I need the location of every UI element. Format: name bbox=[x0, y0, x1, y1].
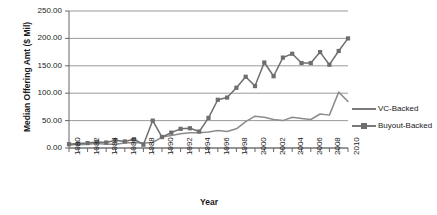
data-point-marker bbox=[244, 75, 248, 79]
data-point-marker bbox=[262, 60, 266, 64]
data-point-marker bbox=[151, 119, 155, 123]
x-tick-label: 2010 bbox=[352, 137, 361, 155]
legend-item-buyout-backed: Buyout-Backed bbox=[352, 117, 437, 134]
series-line-buyout-backed bbox=[69, 38, 348, 144]
data-point-marker bbox=[216, 98, 220, 102]
data-point-marker bbox=[346, 36, 350, 40]
data-point-marker bbox=[337, 49, 341, 53]
data-point-marker bbox=[123, 139, 127, 143]
x-tick-label: 2006 bbox=[315, 137, 324, 155]
x-tick-label: 2008 bbox=[333, 137, 342, 155]
legend-swatch-line-marker-icon bbox=[352, 120, 376, 131]
legend-swatch-line-icon bbox=[352, 103, 376, 114]
x-tick-label: 1984 bbox=[110, 137, 119, 155]
data-point-marker bbox=[141, 143, 145, 147]
data-point-marker bbox=[253, 84, 257, 88]
x-axis-title: Year bbox=[69, 197, 349, 207]
x-tick-label: 1998 bbox=[240, 137, 249, 155]
data-point-marker bbox=[327, 63, 331, 67]
chart-container: Median Offering Amt ($ Mil) Year 0.0050.… bbox=[0, 0, 437, 215]
data-point-marker bbox=[188, 126, 192, 130]
data-point-marker bbox=[206, 116, 210, 120]
x-tick-label: 2002 bbox=[278, 137, 287, 155]
x-tick-label: 1994 bbox=[203, 137, 212, 155]
legend-label-buyout-backed: Buyout-Backed bbox=[376, 121, 432, 130]
data-point-marker bbox=[309, 61, 313, 65]
x-tick-label: 1990 bbox=[166, 137, 175, 155]
x-tick-label: 1980 bbox=[73, 137, 82, 155]
legend-label-vc-backed: VC-Backed bbox=[376, 104, 418, 113]
data-point-marker bbox=[225, 95, 229, 99]
data-point-marker bbox=[318, 50, 322, 54]
data-point-marker bbox=[234, 86, 238, 90]
data-point-marker bbox=[67, 142, 71, 146]
y-tick-label: 150.00 bbox=[18, 61, 62, 70]
data-point-marker bbox=[272, 74, 276, 78]
x-tick-label: 1992 bbox=[185, 137, 194, 155]
y-tick-label: 200.00 bbox=[18, 33, 62, 42]
data-point-marker bbox=[290, 52, 294, 56]
chart-legend: VC-Backed Buyout-Backed bbox=[352, 100, 437, 134]
y-tick-label: 50.00 bbox=[18, 116, 62, 125]
data-point-marker bbox=[197, 129, 201, 133]
data-point-marker bbox=[160, 135, 164, 139]
data-point-marker bbox=[86, 141, 90, 145]
data-point-marker bbox=[281, 55, 285, 59]
y-tick-label: 100.00 bbox=[18, 88, 62, 97]
data-point-marker bbox=[104, 140, 108, 144]
y-axis-title: Median Offering Amt ($ Mil) bbox=[22, 2, 32, 152]
x-tick-label: 1982 bbox=[92, 137, 101, 155]
data-point-marker bbox=[299, 61, 303, 65]
x-tick-label: 1986 bbox=[129, 137, 138, 155]
data-point-marker bbox=[179, 127, 183, 131]
y-tick-label: 250.00 bbox=[18, 6, 62, 15]
x-tick-label: 2000 bbox=[259, 137, 268, 155]
x-tick-label: 1996 bbox=[222, 137, 231, 155]
y-tick-label: 0.00 bbox=[18, 143, 62, 152]
data-point-marker bbox=[169, 131, 173, 135]
x-tick-label: 2004 bbox=[296, 137, 305, 155]
legend-item-vc-backed: VC-Backed bbox=[352, 100, 437, 117]
x-tick-label: 1988 bbox=[147, 137, 156, 155]
